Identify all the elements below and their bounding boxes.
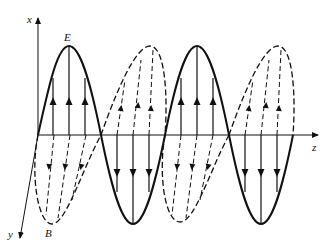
y-axis-label: y — [7, 228, 13, 240]
em-wave-diagram: x z y E B — [0, 0, 330, 247]
axes — [20, 18, 318, 238]
z-axis-label: z — [311, 141, 317, 153]
y-axis-line — [20, 135, 38, 238]
x-axis-label: x — [26, 13, 32, 25]
e-field-label: E — [63, 31, 71, 43]
b-field-label: B — [45, 227, 52, 239]
